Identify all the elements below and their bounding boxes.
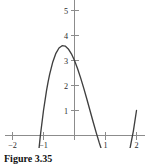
x-tick-label-2: 2 <box>134 141 138 148</box>
y-tick-label-5: 5 <box>64 7 68 16</box>
x-tick-label--2: −2 <box>8 141 17 148</box>
x-tick-label-1: 1 <box>103 141 107 148</box>
y-tick-label-1: 1 <box>64 107 68 116</box>
figure-3-35: −2 −1 1 2 1 2 3 4 5 Figure 3.35 <box>0 0 148 168</box>
y-tick-label-3: 3 <box>64 57 68 66</box>
cubic-function-graph: −2 −1 1 2 1 2 3 4 5 <box>0 0 148 148</box>
y-tick-label-4: 4 <box>64 32 68 41</box>
y-tick-label-2: 2 <box>64 82 68 91</box>
x-tick-labels: −2 −1 1 2 <box>8 141 138 148</box>
x-tick-label--1: −1 <box>39 141 48 148</box>
plot-area: −2 −1 1 2 1 2 3 4 5 <box>0 0 148 148</box>
y-tick-labels: 1 2 3 4 5 <box>64 7 68 116</box>
figure-caption: Figure 3.35 <box>4 153 148 165</box>
